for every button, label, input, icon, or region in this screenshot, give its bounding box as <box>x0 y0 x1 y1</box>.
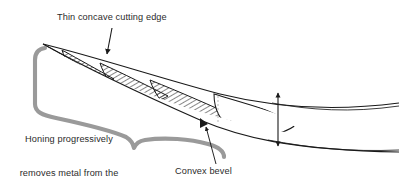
top-label-leader-arrow <box>107 28 112 54</box>
label-thin-concave-cutting-edge: Thin concave cutting edge <box>57 12 167 23</box>
label-convex-bevel: Convex bevel <box>175 166 232 177</box>
honing-stage-1 <box>43 44 80 65</box>
diagram-canvas: Thin concave cutting edge Honing progres… <box>0 0 399 190</box>
label-honing-line-2: removes metal from the <box>8 168 130 179</box>
label-honing-line-1: Honing progressively <box>8 134 130 145</box>
label-honing-description: Honing progressively removes metal from … <box>8 112 130 190</box>
